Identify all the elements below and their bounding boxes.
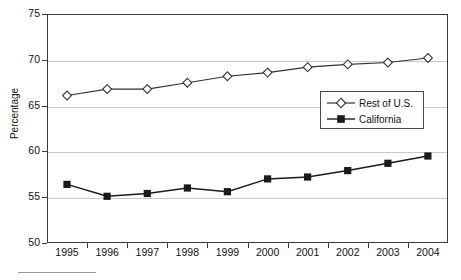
data-point-diamond — [424, 54, 433, 63]
data-point-square — [344, 167, 351, 174]
diamond-open-icon — [326, 96, 356, 110]
data-point-square — [144, 190, 151, 197]
chart-canvas: Percentage 757065605550 1995199619971998… — [0, 0, 461, 280]
data-point-diamond — [143, 85, 152, 94]
x-axis-tick-label: 2001 — [285, 247, 331, 258]
y-axis-tick-label: 75 — [14, 8, 40, 18]
data-point-square — [384, 160, 391, 167]
data-point-diamond — [303, 63, 312, 72]
data-point-diamond — [103, 85, 112, 94]
x-axis-tick-label: 1999 — [204, 247, 250, 258]
series-line — [67, 58, 428, 96]
data-point-diamond — [383, 58, 392, 67]
data-point-diamond — [343, 60, 352, 69]
x-axis-tick-label: 2004 — [405, 247, 451, 258]
y-axis-title: Percentage — [9, 74, 20, 154]
data-point-square — [304, 173, 311, 180]
legend-item-california: California — [321, 111, 423, 127]
data-point-square — [424, 152, 431, 159]
data-point-square — [224, 188, 231, 195]
x-axis-tick-label: 1998 — [164, 247, 210, 258]
legend-label-rest-of-us: Rest of U.S. — [359, 98, 413, 109]
data-point-square — [264, 175, 271, 182]
series-line — [67, 156, 428, 196]
square-filled-icon — [326, 112, 356, 126]
legend-item-rest-of-us: Rest of U.S. — [321, 95, 423, 111]
data-point-diamond — [223, 72, 232, 81]
y-axis-tick — [42, 243, 47, 244]
y-axis-tick-label: 50 — [14, 237, 40, 247]
data-point-square — [184, 184, 191, 191]
x-axis-tick-label: 2002 — [325, 247, 371, 258]
chart-legend: Rest of U.S. California — [320, 91, 424, 129]
legend-label-california: California — [359, 114, 401, 125]
data-point-diamond — [63, 91, 72, 100]
data-point-square — [63, 181, 70, 188]
y-axis-tick-label: 70 — [14, 54, 40, 64]
x-axis-tick-label: 1996 — [84, 247, 130, 258]
data-point-diamond — [183, 78, 192, 87]
y-axis-tick-label: 60 — [14, 145, 40, 155]
footer-rule — [18, 272, 96, 273]
y-axis-tick-label: 55 — [14, 191, 40, 201]
x-axis-tick-label: 1995 — [44, 247, 90, 258]
y-axis-tick-label: 65 — [14, 100, 40, 110]
data-point-diamond — [263, 68, 272, 77]
data-point-square — [104, 193, 111, 200]
